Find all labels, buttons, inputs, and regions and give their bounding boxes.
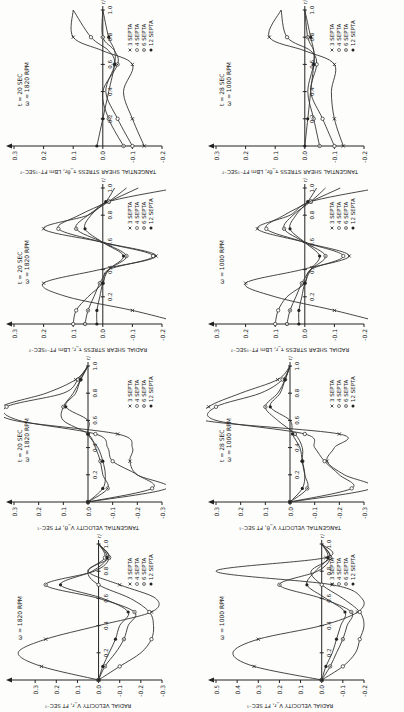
x-tick-label: 0.2 xyxy=(309,292,315,301)
y-tick-label: 0.2 xyxy=(242,151,249,161)
series-line-3-septa xyxy=(245,188,388,324)
condition-annotation: ω = 1820 RPM xyxy=(23,418,30,462)
chart-radial-velocity-1820: 0.30.20.10.0-0.1-0.2-0.30.20.40.60.81.0r… xyxy=(0,534,202,712)
x-tick-label: 0.8 xyxy=(103,566,109,575)
legend-entry: 12 SEPTA xyxy=(350,20,356,46)
chart-radial-velocity-1000: 0.50.40.30.20.10.0-0.1-0.20.20.40.60.81.… xyxy=(202,534,404,712)
legend-entry: 6 SEPTA xyxy=(141,558,147,580)
legend-entry: 6 SEPTA xyxy=(141,24,147,46)
legend-entry: 4 SEPTA xyxy=(336,558,342,580)
y-tick-label: 0.0 xyxy=(287,507,294,517)
x-tick-label: 1.0 xyxy=(309,5,315,14)
y-tick-label: -0.2 xyxy=(361,151,368,163)
condition-annotation: ω = 1820 RPM xyxy=(16,596,23,640)
series-line-6-septa xyxy=(46,544,136,680)
y-tick-label: -0.2 xyxy=(159,151,166,163)
y-axis-label: TANGENTIAL VELOCITY V_θ, FT SEC⁻¹ xyxy=(37,524,140,531)
x-tick-label: 1.0 xyxy=(92,361,98,370)
x-tick-label: 0.6 xyxy=(294,416,300,425)
y-tick-label: 0.1 xyxy=(297,685,304,695)
legend-entry: 12 SEPTA xyxy=(148,20,154,46)
y-tick-label: -0.2 xyxy=(134,507,141,519)
y-tick-label: -0.3 xyxy=(159,685,166,697)
legend-entry: 12 SEPTA xyxy=(350,198,356,224)
condition-annotation: t = 20 SEC xyxy=(16,429,23,462)
y-axis-label: RADIAL VELOCITY V_r, FT SEC⁻¹ xyxy=(247,702,334,709)
y-axis-label: TANGENTIAL SHEAR STRESS τ_θr, LBm FT⁻¹SE… xyxy=(222,168,359,175)
x-tick-label: 0.8 xyxy=(294,388,300,397)
legend-entry: 4 SEPTA xyxy=(134,202,140,224)
condition-annotation: t = 28 SEC xyxy=(218,73,225,106)
legend-entry: 12 SEPTA xyxy=(350,554,356,580)
y-tick-label: 0.1 xyxy=(60,507,67,517)
legend-entry: 3 SEPTA xyxy=(127,202,133,224)
series-line-6-septa xyxy=(61,366,108,502)
x-tick-label: 0.6 xyxy=(92,416,98,425)
condition-annotation: t = 28 SEC xyxy=(218,429,225,462)
y-tick-label: 0.1 xyxy=(70,329,77,339)
condition-annotation: t = 20 SEC xyxy=(16,251,23,284)
y-tick-label: 0.1 xyxy=(74,685,81,695)
condition-annotation: ω = 1000 RPM xyxy=(225,418,232,462)
legend-entry: 4 SEPTA xyxy=(134,24,140,46)
chart-radial-shear-1820: 0.30.20.10.0-0.1-0.20.20.40.60.81.0r/RRA… xyxy=(0,178,202,356)
y-tick-label: 0.1 xyxy=(70,151,77,161)
y-tick-label: 0.0 xyxy=(318,685,325,695)
y-tick-label: 0.2 xyxy=(40,329,47,339)
x-tick-label: 0.8 xyxy=(107,210,113,219)
x-tick-label: 0.4 xyxy=(309,87,315,96)
y-tick-label: -0.3 xyxy=(361,507,368,519)
x-axis-label: r/R xyxy=(96,534,102,538)
condition-annotation: t = 20 SEC xyxy=(16,73,23,106)
y-tick-label: 0.5 xyxy=(213,685,220,695)
y-tick-label: -0.1 xyxy=(331,151,338,163)
legend-entry: 6 SEPTA xyxy=(141,380,147,402)
series-line-12-septa xyxy=(305,10,314,146)
y-tick-label: -0.2 xyxy=(137,685,144,697)
y-tick-label: -0.1 xyxy=(109,507,116,519)
y-tick-label: 0.3 xyxy=(32,685,39,695)
x-tick-label: 0.4 xyxy=(103,621,109,630)
series-line-12-septa xyxy=(60,544,128,680)
y-tick-label: 0.0 xyxy=(99,151,106,161)
y-tick-label: 0.3 xyxy=(213,329,220,339)
x-tick-label: 0.8 xyxy=(309,210,315,219)
x-axis-label: r/R xyxy=(85,356,91,360)
y-tick-label: 0.1 xyxy=(262,507,269,517)
series-line-6-septa xyxy=(76,188,127,324)
y-tick-label: -0.1 xyxy=(331,329,338,341)
y-tick-label: 0.4 xyxy=(234,685,241,695)
chart-tangential-velocity-1820: 0.30.20.10.0-0.1-0.2-0.30.20.40.60.81.0r… xyxy=(0,356,202,534)
series-line-4-septa xyxy=(281,10,334,146)
x-tick-label: 0.4 xyxy=(326,621,332,630)
y-tick-label: -0.1 xyxy=(311,507,318,519)
series-line-12-septa xyxy=(270,366,305,502)
legend-entry: 6 SEPTA xyxy=(343,558,349,580)
legend-entry: 3 SEPTA xyxy=(127,380,133,402)
legend-entry: 3 SEPTA xyxy=(329,380,335,402)
series-line-12-septa xyxy=(97,10,115,146)
legend-entry: 6 SEPTA xyxy=(343,380,349,402)
x-tick-label: 1.0 xyxy=(107,5,113,14)
legend-entry: 4 SEPTA xyxy=(134,558,140,580)
legend-entry: 3 SEPTA xyxy=(127,24,133,46)
y-axis-label: RADIAL SHEAR STRESS τ_r, LBm FT⁻¹SEC⁻² xyxy=(231,346,349,353)
legend-entry: 12 SEPTA xyxy=(350,376,356,402)
y-tick-label: 0.1 xyxy=(272,329,279,339)
chart-radial-shear-1000: 0.30.20.10.0-0.1-0.20.20.40.60.81.0r/RRA… xyxy=(202,178,404,356)
legend-entry: 4 SEPTA xyxy=(336,24,342,46)
legend-entry: 4 SEPTA xyxy=(336,202,342,224)
x-tick-label: 1.0 xyxy=(107,183,113,192)
chart-tangential-velocity-1000: 0.30.20.10.0-0.1-0.2-0.30.20.40.60.81.0r… xyxy=(202,356,404,534)
x-axis-label: r/R xyxy=(319,534,325,538)
y-tick-label: 0.3 xyxy=(213,151,220,161)
y-tick-label: 0.2 xyxy=(237,507,244,517)
rotated-figure-canvas: 0.30.20.10.0-0.1-0.2-0.30.20.40.60.81.0r… xyxy=(0,0,404,712)
legend-entry: 6 SEPTA xyxy=(141,202,147,224)
y-tick-label: -0.2 xyxy=(159,329,166,341)
legend-entry: 12 SEPTA xyxy=(148,554,154,580)
legend-entry: 4 SEPTA xyxy=(336,380,342,402)
y-tick-label: 0.2 xyxy=(53,685,60,695)
condition-annotation: ω = 1820 RPM xyxy=(23,62,30,106)
y-axis-label: TANGENTIAL SHEAR STRESS τ_θr, LBm FT⁻¹SE… xyxy=(20,168,157,175)
